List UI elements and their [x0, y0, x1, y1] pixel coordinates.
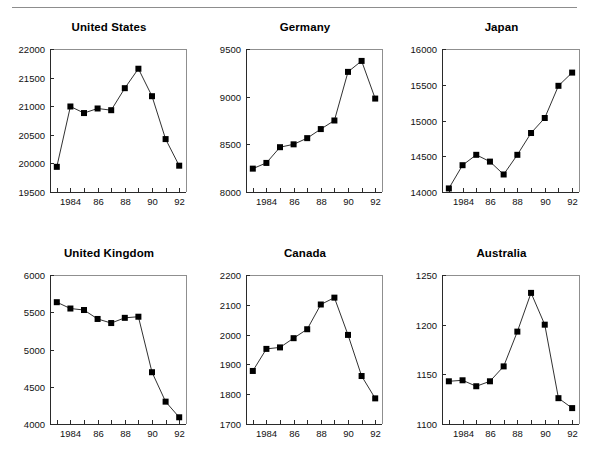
data-point-marker [514, 329, 520, 335]
y-tick-label: 22000 [19, 44, 45, 55]
panel-australia: Australia 1100115012001250198486889092 [392, 240, 589, 472]
y-tick-label: 1700 [220, 419, 241, 430]
data-point-marker [149, 369, 155, 375]
x-tick-label: 1984 [60, 196, 81, 207]
x-tick-label: 1984 [453, 196, 474, 207]
plot-frame [246, 49, 382, 192]
data-point-marker [555, 83, 561, 89]
y-tick-label: 15500 [411, 80, 437, 91]
data-point-marker [108, 320, 114, 326]
data-point-marker [250, 368, 256, 374]
chart-page: United States 19500200002050021000215002… [0, 0, 589, 472]
data-point-marker [542, 115, 548, 121]
panel-plot: 1100115012001250198486889092 [392, 240, 589, 472]
data-point-marker [67, 103, 73, 109]
x-tick-label: 92 [370, 428, 381, 439]
panel-plot: 1950020000205002100021500220001984868890… [0, 14, 196, 240]
data-point-marker [501, 171, 507, 177]
data-point-marker [95, 316, 101, 322]
x-tick-label: 92 [370, 196, 381, 207]
data-point-marker [460, 162, 466, 168]
data-point-marker [569, 405, 575, 411]
plot-frame [442, 49, 579, 192]
data-point-marker [345, 332, 351, 338]
y-tick-label: 5500 [24, 307, 45, 318]
x-tick-label: 86 [289, 196, 300, 207]
y-tick-label: 9000 [220, 92, 241, 103]
panel-canada: Canada 170018001900200021002200198486889… [196, 240, 392, 472]
x-tick-label: 86 [289, 428, 300, 439]
y-tick-label: 2100 [220, 300, 241, 311]
data-point-marker [54, 164, 60, 170]
data-point-marker [528, 130, 534, 136]
data-point-marker [446, 185, 452, 191]
plot-area: 8000850090009500198486889092 [196, 14, 392, 240]
series-line [253, 61, 375, 169]
plot-axes [50, 49, 186, 192]
header-rule [12, 7, 577, 8]
x-tick-label: 90 [343, 196, 354, 207]
data-point-marker [304, 135, 310, 141]
data-point-marker [304, 326, 310, 332]
panel-plot: 40004500500055006000198486889092 [0, 240, 196, 472]
series-line [449, 293, 572, 408]
plot-area: 1400014500150001550016000198486889092 [392, 14, 589, 240]
y-tick-label: 20000 [19, 158, 45, 169]
x-tick-label: 86 [485, 196, 496, 207]
plot-area: 40004500500055006000198486889092 [0, 240, 196, 472]
y-tick-label: 14000 [411, 187, 437, 198]
data-point-marker [446, 378, 452, 384]
y-tick-label: 4000 [24, 419, 45, 430]
x-tick-label: 88 [120, 196, 131, 207]
data-point-marker [95, 105, 101, 111]
y-tick-label: 14500 [411, 151, 437, 162]
x-tick-label: 90 [147, 196, 158, 207]
y-tick-label: 2000 [220, 330, 241, 341]
data-point-marker [359, 373, 365, 379]
data-point-marker [318, 126, 324, 132]
x-tick-label: 86 [93, 196, 104, 207]
data-point-marker [163, 399, 169, 405]
panel-united-states: United States 19500200002050021000215002… [0, 14, 196, 240]
x-tick-label: 88 [512, 196, 523, 207]
x-tick-label: 92 [174, 196, 185, 207]
data-point-marker [277, 144, 283, 150]
data-point-marker [122, 85, 128, 91]
x-tick-label: 92 [567, 196, 578, 207]
panel-grid: United States 19500200002050021000215002… [0, 14, 589, 472]
x-tick-label: 88 [120, 428, 131, 439]
y-tick-label: 20500 [19, 130, 45, 141]
data-point-marker [81, 307, 87, 313]
y-tick-label: 19500 [19, 187, 45, 198]
series-line [253, 298, 375, 399]
y-tick-label: 21000 [19, 101, 45, 112]
x-tick-label: 88 [512, 428, 523, 439]
data-point-marker [176, 163, 182, 169]
data-point-marker [135, 66, 141, 72]
plot-axes [246, 49, 382, 192]
data-point-marker [372, 395, 378, 401]
data-point-marker [542, 322, 548, 328]
y-tick-label: 15000 [411, 116, 437, 127]
y-tick-label: 4500 [24, 382, 45, 393]
data-point-marker [473, 383, 479, 389]
panel-plot: 1400014500150001550016000198486889092 [392, 14, 589, 240]
x-tick-label: 86 [93, 428, 104, 439]
data-point-marker [569, 70, 575, 76]
y-tick-label: 2200 [220, 270, 241, 281]
data-point-marker [331, 118, 337, 124]
data-point-marker [176, 414, 182, 420]
plot-area: 1100115012001250198486889092 [392, 240, 589, 472]
data-point-marker [345, 69, 351, 75]
data-point-marker [263, 346, 269, 352]
data-point-marker [291, 335, 297, 341]
x-tick-label: 90 [147, 428, 158, 439]
y-tick-label: 5000 [24, 345, 45, 356]
panel-plot: 8000850090009500198486889092 [196, 14, 392, 240]
data-point-marker [108, 107, 114, 113]
data-point-marker [331, 295, 337, 301]
panel-japan: Japan 1400014500150001550016000198486889… [392, 14, 589, 240]
y-tick-label: 8000 [220, 187, 241, 198]
plot-frame [50, 49, 186, 192]
data-point-marker [372, 96, 378, 102]
